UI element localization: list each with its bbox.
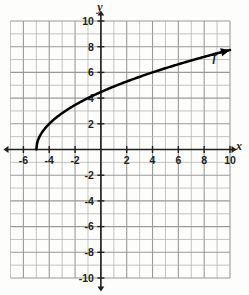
graph-canvas: -6-4-2246810108642-2-4-6-8-10 f x y xyxy=(0,0,249,295)
x-tick-label: -4 xyxy=(45,154,54,166)
y-tick-label: 6 xyxy=(88,66,94,78)
y-tick-label: 10 xyxy=(82,15,94,27)
y-tick-label: 8 xyxy=(88,41,94,53)
function-curve xyxy=(36,48,230,149)
x-tick-label: -2 xyxy=(70,154,79,166)
curve-path-f xyxy=(36,50,230,150)
y-axis-label: y xyxy=(95,0,103,14)
x-tick-label: -6 xyxy=(19,154,28,166)
x-tick-label: 2 xyxy=(124,154,130,166)
y-tick-label: 2 xyxy=(88,118,94,130)
x-axis-arrow-left xyxy=(4,146,9,153)
x-tick-label: 8 xyxy=(201,154,207,166)
x-tick-label: 4 xyxy=(150,154,156,166)
y-tick-label: -10 xyxy=(79,272,94,284)
x-axis-label: x xyxy=(235,139,242,153)
coordinate-graph: -6-4-2246810108642-2-4-6-8-10 f x y xyxy=(0,0,249,295)
axes xyxy=(4,11,237,292)
x-tick-label: 10 xyxy=(224,154,236,166)
x-tick-label: 6 xyxy=(175,154,181,166)
y-tick-label: -8 xyxy=(85,246,94,258)
y-tick-label: -4 xyxy=(85,195,94,207)
y-tick-label: -6 xyxy=(85,220,94,232)
y-tick-label: -2 xyxy=(85,169,94,181)
y-axis-arrow-down xyxy=(97,287,104,292)
